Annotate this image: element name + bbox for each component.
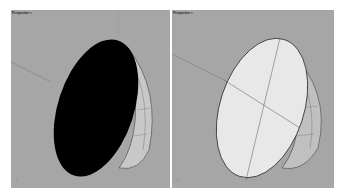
grid-axis-line [11,62,51,82]
hemisphere-render[interactable] [11,10,170,188]
viewport-perspective-left[interactable]: Perspective ▾ ⊥ [11,10,170,188]
grid-axis-line [172,54,224,80]
hemisphere-render[interactable] [172,10,334,188]
viewport-perspective-right[interactable]: Perspective ▾ ⊥ [172,10,334,188]
world-axis-icon: ⊥ [15,178,18,182]
world-axis-icon: ⊥ [176,178,179,182]
hemisphere-face [200,27,324,188]
